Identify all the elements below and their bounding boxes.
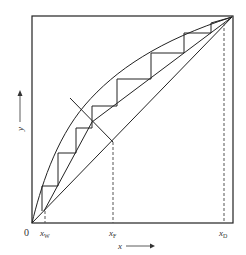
xw-label: xW bbox=[39, 228, 50, 239]
xf-label: xF bbox=[108, 228, 117, 239]
y-arrow-head-icon bbox=[18, 90, 23, 96]
mccabe-thiele-diagram: 0 xW xF xD x y bbox=[0, 0, 246, 255]
x-arrow-head-icon bbox=[150, 244, 155, 249]
x-axis-label: x bbox=[117, 241, 122, 251]
y-axis-label: y bbox=[15, 127, 25, 132]
origin-label: 0 bbox=[24, 227, 29, 238]
xd-label: xD bbox=[218, 228, 228, 239]
diagonal-line bbox=[32, 17, 232, 223]
stripping-operating-line bbox=[44, 122, 92, 211]
